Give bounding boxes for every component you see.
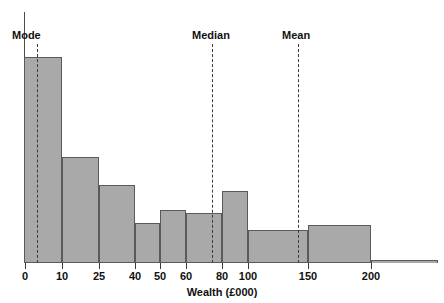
x-axis-tick <box>222 263 223 269</box>
histogram-bar <box>371 260 438 263</box>
histogram-bar <box>186 213 222 263</box>
x-axis-tick-label: 150 <box>288 270 328 282</box>
histogram-bar <box>248 230 308 263</box>
x-axis-tick <box>160 263 161 269</box>
x-axis-tick-label: 0 <box>5 270 45 282</box>
marker-line-mode <box>37 44 38 263</box>
histogram-bar <box>160 210 186 263</box>
x-axis-tick <box>371 263 372 269</box>
histogram-bar <box>99 185 135 263</box>
x-axis-tick <box>62 263 63 269</box>
x-axis-title: Wealth (£000) <box>0 286 444 299</box>
x-axis-tick-label: 200 <box>351 270 391 282</box>
x-axis-tick-label: 60 <box>166 270 206 282</box>
histogram-chart: 0102540506080100150200 ModeMedianMean We… <box>0 0 444 303</box>
plot-area: 0102540506080100150200 ModeMedianMean We… <box>0 0 444 303</box>
histogram-bar <box>222 191 248 263</box>
marker-label-mean: Mean <box>282 29 310 41</box>
histogram-bar <box>24 57 62 263</box>
x-axis-tick <box>248 263 249 269</box>
marker-label-mode: Mode <box>12 29 41 41</box>
x-axis-tick-label: 25 <box>79 270 119 282</box>
x-axis-tick <box>99 263 100 269</box>
histogram-bar <box>308 225 371 263</box>
histogram-bar <box>135 223 160 263</box>
histogram-bar <box>62 157 99 263</box>
x-axis-tick-label: 100 <box>228 270 268 282</box>
marker-line-median <box>212 44 213 263</box>
marker-label-median: Median <box>192 29 230 41</box>
x-axis-tick <box>25 263 26 269</box>
marker-line-mean <box>298 44 299 263</box>
x-axis-tick <box>186 263 187 269</box>
x-axis-tick <box>308 263 309 269</box>
x-axis-tick-label: 10 <box>42 270 82 282</box>
x-axis-tick <box>135 263 136 269</box>
